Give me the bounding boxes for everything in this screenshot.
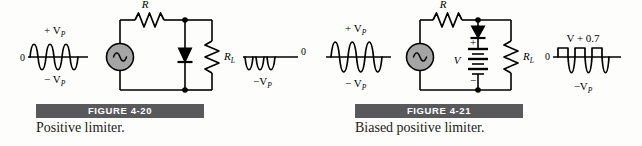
output-negative-peak-label: −VP: [574, 80, 593, 95]
diode-icon: [179, 48, 192, 62]
output-biased-clipped-trace: [558, 48, 609, 73]
load-resistor-icon: [205, 41, 219, 73]
input-positive-peak-label: + VP: [345, 22, 367, 37]
figure-page: 0 + VP − VP: [0, 0, 642, 146]
series-resistor-label: R: [439, 0, 447, 10]
figure-4-21-number-bar: FIGURE 4-21: [355, 104, 523, 118]
input-negative-peak-label: − VP: [345, 77, 367, 92]
bias-battery-icon: [468, 49, 488, 74]
figure-4-20-number-bar: FIGURE 4-20: [36, 104, 204, 118]
figure-4-21-diagram: + VP − VP R: [321, 0, 642, 100]
output-clipped-trace: [245, 57, 275, 70]
input-positive-peak-label: + VP: [44, 24, 66, 39]
output-zero-label: 0: [301, 46, 306, 57]
input-waveform-group: + VP − VP: [326, 22, 391, 92]
load-resistor-label: RL: [522, 50, 534, 65]
figure-4-20-caption-text: Positive limiter.: [36, 120, 306, 136]
series-resistor-icon: [135, 13, 164, 27]
input-waveform-group: 0 + VP − VP: [20, 24, 88, 88]
figure-4-20-diagram: 0 + VP − VP: [0, 0, 321, 100]
battery-plus-label: +: [470, 36, 476, 48]
figure-4-20-caption-block: FIGURE 4-20 Positive limiter.: [36, 104, 306, 136]
circuit-schematic-biased-positive-limiter: + VP − VP R: [321, 0, 642, 100]
input-zero-label: 0: [20, 52, 25, 63]
output-waveform-group: 0 V + 0.7 −VP: [545, 32, 621, 95]
output-negative-peak-label: −VP: [253, 75, 272, 90]
load-resistor-label: RL: [223, 50, 235, 65]
figure-4-20: 0 + VP − VP: [0, 0, 321, 146]
output-zero-label: 0: [545, 51, 550, 62]
circuit-group: R: [407, 0, 534, 93]
output-waveform-group: 0 −VP: [243, 46, 306, 90]
figure-4-21-caption-block: FIGURE 4-21 Biased positive limiter.: [355, 104, 625, 136]
input-negative-peak-label: − VP: [44, 73, 66, 88]
figure-4-21-caption-text: Biased positive limiter.: [355, 120, 625, 136]
circuit-group: R: [107, 0, 235, 93]
input-sine-trace: [331, 42, 382, 72]
load-resistor-icon: [504, 41, 518, 73]
circuit-schematic-positive-limiter: 0 + VP − VP: [0, 0, 321, 100]
series-resistor-icon: [433, 13, 462, 27]
output-clip-level-label: V + 0.7: [566, 32, 600, 44]
series-resistor-label: R: [141, 0, 149, 10]
battery-minus-label: −: [470, 74, 476, 86]
figure-4-21: + VP − VP R: [321, 0, 642, 146]
input-sine-trace: [30, 44, 78, 70]
battery-voltage-label: V: [454, 54, 462, 66]
